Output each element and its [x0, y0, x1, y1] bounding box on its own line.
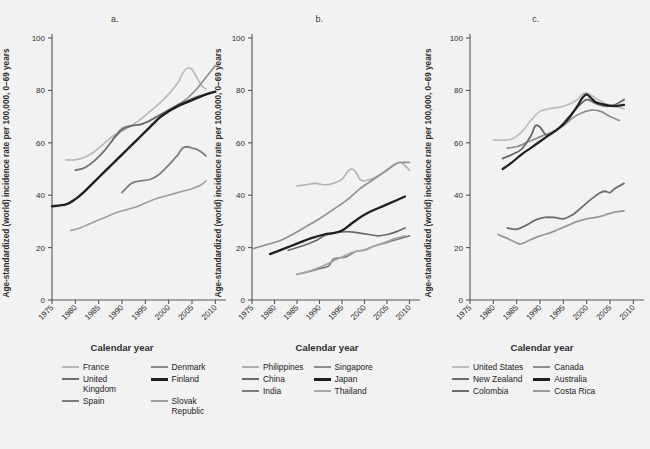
svg-text:1985: 1985 [501, 303, 520, 322]
svg-text:0: 0 [41, 296, 46, 305]
legend-item[interactable]: Canada [533, 362, 595, 372]
series-line-new-zealand [503, 99, 624, 158]
series-line-costa-rica [498, 211, 624, 244]
legend-swatch-icon [314, 366, 331, 368]
svg-text:40: 40 [454, 191, 463, 200]
legend-item[interactable]: Singapore [314, 362, 373, 372]
legend-item[interactable]: Costa Rica [533, 386, 595, 396]
panel-a-xlabel: Calendar year [22, 342, 222, 353]
legend-label: France [83, 362, 109, 372]
legend-swatch-icon [452, 366, 469, 368]
svg-text:2000: 2000 [153, 303, 172, 322]
panel-b: b. Age-standardized (world) incidence ra… [212, 0, 427, 449]
series-line-united-states [493, 93, 624, 140]
figure-root: a. Age-standardized (world) incidence ra… [0, 0, 650, 449]
svg-text:80: 80 [454, 86, 463, 95]
svg-text:0: 0 [241, 296, 246, 305]
legend-label: Spain [83, 396, 104, 406]
legend-swatch-icon [452, 390, 469, 392]
legend-swatch-icon [62, 366, 79, 368]
legend-swatch-icon [533, 366, 550, 368]
legend-label: Colombia [473, 386, 508, 396]
legend-item[interactable]: China [242, 374, 304, 384]
legend-swatch-icon [151, 366, 168, 368]
legend-swatch-icon [62, 378, 79, 380]
svg-text:1990: 1990 [524, 303, 543, 322]
legend-label: Singapore [335, 362, 373, 372]
panel-c: c. Age-standardized (world) incidence ra… [422, 0, 650, 449]
svg-text:1980: 1980 [60, 303, 79, 322]
panel-c-xlabel: Calendar year [442, 342, 642, 353]
svg-text:20: 20 [236, 244, 245, 253]
legend-swatch-icon [62, 400, 79, 402]
legend-swatch-icon [242, 390, 259, 392]
panel-c-legend: United StatesCanadaNew ZealandAustraliaC… [452, 362, 595, 396]
svg-text:100: 100 [450, 34, 464, 43]
legend-swatch-icon [314, 378, 331, 381]
svg-text:80: 80 [236, 86, 245, 95]
svg-text:40: 40 [36, 191, 45, 200]
panel-a-plot: 0204060801001975198019851990199520002005… [0, 0, 230, 360]
legend-item[interactable]: Australia [533, 374, 595, 384]
legend-item[interactable]: India [242, 386, 304, 396]
panel-b-legend: PhilippinesSingaporeChinaJapanIndiaThail… [242, 362, 373, 396]
legend-label: Philippines [263, 362, 304, 372]
legend-label: China [263, 374, 285, 384]
panel-b-plot: 0204060801001975198019851990199520002005… [212, 0, 427, 360]
svg-text:1975: 1975 [36, 303, 55, 322]
legend-label: United Kingdom [83, 374, 141, 394]
svg-text:1975: 1975 [236, 303, 255, 322]
svg-text:2010: 2010 [394, 303, 413, 322]
legend-swatch-icon [151, 400, 168, 402]
series-line-colombia [507, 183, 624, 229]
legend-item[interactable]: United Kingdom [62, 374, 141, 394]
legend-label: Japan [335, 374, 358, 384]
svg-text:1980: 1980 [259, 303, 278, 322]
legend-swatch-icon [151, 378, 168, 381]
legend-label: United States [473, 362, 523, 372]
svg-text:100: 100 [32, 34, 46, 43]
legend-item[interactable]: Colombia [452, 386, 523, 396]
legend-label: Australia [554, 374, 587, 384]
legend-swatch-icon [242, 366, 259, 368]
legend-swatch-icon [242, 378, 259, 380]
svg-text:40: 40 [236, 191, 245, 200]
panel-b-xlabel: Calendar year [232, 342, 422, 353]
svg-text:2005: 2005 [176, 303, 195, 322]
svg-text:2000: 2000 [571, 303, 590, 322]
svg-text:60: 60 [36, 139, 45, 148]
svg-text:2000: 2000 [349, 303, 368, 322]
legend-item[interactable]: Japan [314, 374, 373, 384]
panel-a-legend: FranceDenmarkUnited KingdomFinlandSpainS… [62, 362, 230, 416]
panel-c-plot: 0204060801001975198019851990199520002005… [422, 0, 650, 360]
legend-item[interactable]: France [62, 362, 141, 372]
legend-label: Costa Rica [554, 386, 595, 396]
svg-text:1985: 1985 [83, 303, 102, 322]
svg-text:80: 80 [36, 86, 45, 95]
svg-text:2005: 2005 [371, 303, 390, 322]
legend-label: Thailand [335, 386, 367, 396]
svg-text:20: 20 [454, 244, 463, 253]
legend-label: New Zealand [473, 374, 522, 384]
svg-text:60: 60 [454, 139, 463, 148]
legend-label: India [263, 386, 281, 396]
legend-swatch-icon [533, 390, 550, 392]
svg-text:1985: 1985 [281, 303, 300, 322]
svg-text:60: 60 [236, 139, 245, 148]
legend-label: Finland [172, 374, 199, 384]
legend-item[interactable]: New Zealand [452, 374, 523, 384]
legend-item[interactable]: Spain [62, 396, 141, 416]
legend-label: Denmark [172, 362, 206, 372]
series-line-slovak-republic [71, 181, 206, 231]
panel-a: a. Age-standardized (world) incidence ra… [0, 0, 230, 449]
svg-text:100: 100 [232, 34, 246, 43]
legend-item[interactable]: Philippines [242, 362, 304, 372]
svg-text:1975: 1975 [454, 303, 473, 322]
series-line-japan [270, 197, 405, 255]
svg-text:0: 0 [459, 296, 464, 305]
legend-item[interactable]: United States [452, 362, 523, 372]
svg-text:1995: 1995 [548, 303, 567, 322]
svg-text:1990: 1990 [304, 303, 323, 322]
legend-item[interactable]: Thailand [314, 386, 373, 396]
svg-text:1995: 1995 [326, 303, 345, 322]
